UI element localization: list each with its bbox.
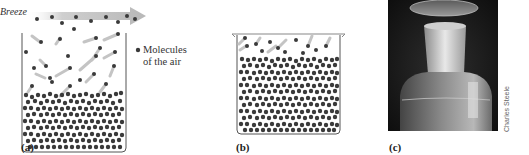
panel-c: Charles Steele (c) bbox=[388, 0, 529, 155]
panel-label-c: (c) bbox=[389, 141, 401, 153]
panel-a: Breeze Molecules of the air (a) bbox=[0, 0, 190, 155]
panel-label-a: (a) bbox=[21, 141, 34, 153]
bottle-photo bbox=[388, 0, 498, 131]
panel-label-b: (b) bbox=[236, 141, 249, 153]
breeze-label: Breeze bbox=[0, 6, 27, 17]
covered-beaker-diagram bbox=[230, 0, 350, 155]
legend-molecules: Molecules of the air bbox=[143, 44, 187, 68]
open-beaker-diagram bbox=[0, 0, 190, 155]
legend-line-2: of the air bbox=[143, 56, 187, 68]
molecule-legend-icon bbox=[136, 48, 140, 52]
photo-credit: Charles Steele bbox=[503, 86, 510, 132]
legend-line-1: Molecules bbox=[143, 44, 187, 56]
panel-b: (b) bbox=[230, 0, 350, 155]
